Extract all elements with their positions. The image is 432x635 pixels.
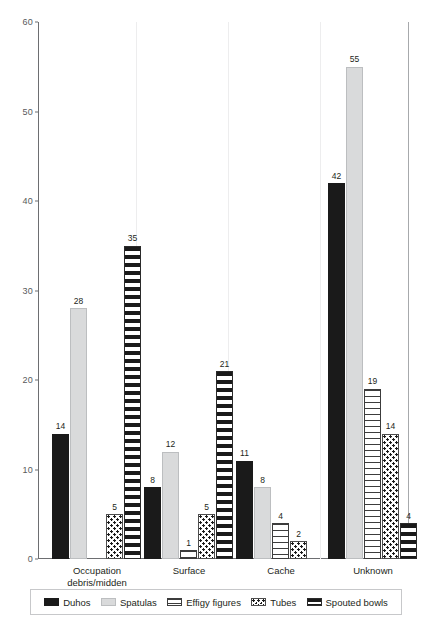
legend-label: Effigy figures bbox=[186, 597, 241, 608]
bar-group-2: 8121521Surface bbox=[144, 22, 234, 559]
bar-slot-effigy-figures bbox=[88, 22, 105, 559]
bar-spatulas[interactable] bbox=[254, 487, 271, 559]
y-axis-tick-label: 30 bbox=[23, 286, 33, 296]
y-axis-tick-label: 50 bbox=[23, 107, 33, 117]
bar-slot-tubes: 5 bbox=[198, 22, 215, 559]
bar-value-label: 5 bbox=[204, 503, 209, 512]
y-axis-tick-mark bbox=[35, 111, 38, 112]
bar-value-label: 5 bbox=[112, 503, 117, 512]
bar-value-label: 19 bbox=[368, 377, 377, 386]
bar-spouted-bowls[interactable] bbox=[124, 246, 141, 559]
y-axis-tick-mark bbox=[35, 380, 38, 381]
bar-slot-spouted-bowls: 21 bbox=[216, 22, 233, 559]
chart-legend: DuhosSpatulasEffigy figuresTubesSpouted … bbox=[30, 589, 402, 615]
x-axis-category-label: Unknown bbox=[313, 565, 432, 577]
bar-slot-tubes: 5 bbox=[106, 22, 123, 559]
legend-swatch-duhos-icon bbox=[44, 598, 59, 606]
y-axis-tick-mark bbox=[35, 201, 38, 202]
bar-group-bars: 425519144 bbox=[328, 22, 418, 559]
bar-value-label: 12 bbox=[166, 440, 175, 449]
bar-tubes[interactable] bbox=[106, 514, 123, 559]
bar-value-label: 21 bbox=[220, 360, 229, 369]
bar-slot-duhos: 42 bbox=[328, 22, 345, 559]
bar-effigy-figures[interactable] bbox=[180, 550, 197, 559]
y-axis-tick-label: 60 bbox=[23, 17, 33, 27]
bar-value-label: 4 bbox=[406, 512, 411, 521]
y-axis-tick-label: 10 bbox=[23, 465, 33, 475]
legend-label: Tubes bbox=[270, 597, 296, 608]
bar-slot-tubes: 14 bbox=[382, 22, 399, 559]
bar-group-1: 1428535Occupation debris/midden bbox=[52, 22, 142, 559]
bar-slot-effigy-figures: 4 bbox=[272, 22, 289, 559]
bar-value-label: 42 bbox=[332, 172, 341, 181]
bar-slot-duhos: 8 bbox=[144, 22, 161, 559]
bar-slot-spouted-bowls bbox=[308, 22, 325, 559]
legend-item-effigy-figures[interactable]: Effigy figures bbox=[167, 597, 241, 608]
y-axis-tick-label: 40 bbox=[23, 196, 33, 206]
bar-group-bars: 11842 bbox=[236, 22, 326, 559]
bar-value-label: 14 bbox=[56, 422, 65, 431]
bar-slot-duhos: 14 bbox=[52, 22, 69, 559]
y-axis-tick-mark bbox=[35, 22, 38, 23]
bar-value-label: 28 bbox=[74, 297, 83, 306]
bar-duhos[interactable] bbox=[236, 461, 253, 559]
y-axis-tick-mark bbox=[35, 290, 38, 291]
bar-spatulas[interactable] bbox=[346, 67, 363, 559]
bar-spouted-bowls[interactable] bbox=[400, 523, 417, 559]
bar-slot-duhos: 11 bbox=[236, 22, 253, 559]
bar-slot-spouted-bowls: 4 bbox=[400, 22, 417, 559]
legend-label: Spatulas bbox=[120, 597, 157, 608]
bar-value-label: 55 bbox=[350, 55, 359, 64]
bar-value-label: 11 bbox=[240, 449, 249, 458]
bar-group-3: 11842Cache bbox=[236, 22, 326, 559]
bar-tubes[interactable] bbox=[382, 434, 399, 559]
bar-value-label: 2 bbox=[296, 530, 301, 539]
bar-value-label: 8 bbox=[260, 476, 265, 485]
bar-effigy-figures[interactable] bbox=[272, 523, 289, 559]
bar-slot-spatulas: 55 bbox=[346, 22, 363, 559]
y-axis-tick-mark bbox=[35, 559, 38, 560]
bar-value-label: 8 bbox=[150, 476, 155, 485]
legend-swatch-effigy-figures-icon bbox=[167, 598, 182, 606]
legend-item-spouted-bowls[interactable]: Spouted bowls bbox=[307, 597, 388, 608]
bar-value-label: 14 bbox=[386, 422, 395, 431]
bar-value-label: 4 bbox=[278, 512, 283, 521]
bar-slot-effigy-figures: 19 bbox=[364, 22, 381, 559]
bar-slot-tubes: 2 bbox=[290, 22, 307, 559]
bar-spatulas[interactable] bbox=[70, 308, 87, 559]
bar-value-label: 1 bbox=[186, 539, 191, 548]
bar-slot-spatulas: 8 bbox=[254, 22, 271, 559]
bar-slot-spatulas: 12 bbox=[162, 22, 179, 559]
y-axis-line bbox=[38, 22, 39, 559]
bar-value-label: 35 bbox=[128, 234, 137, 243]
bar-slot-effigy-figures: 1 bbox=[180, 22, 197, 559]
legend-label: Spouted bowls bbox=[326, 597, 388, 608]
bar-spatulas[interactable] bbox=[162, 452, 179, 559]
y-axis-tick-mark bbox=[35, 469, 38, 470]
bar-effigy-figures[interactable] bbox=[364, 389, 381, 559]
bar-group-bars: 8121521 bbox=[144, 22, 234, 559]
y-axis-tick-label: 0 bbox=[28, 554, 33, 564]
bar-duhos[interactable] bbox=[144, 487, 161, 559]
bar-tubes[interactable] bbox=[198, 514, 215, 559]
bar-slot-spatulas: 28 bbox=[70, 22, 87, 559]
bar-spouted-bowls[interactable] bbox=[216, 371, 233, 559]
bar-group-4: 425519144Unknown bbox=[328, 22, 418, 559]
legend-swatch-spouted-bowls-icon bbox=[307, 598, 322, 606]
legend-label: Duhos bbox=[63, 597, 90, 608]
legend-swatch-spatulas-icon bbox=[101, 598, 116, 606]
bar-chart-figure: 0102030405060 1428535Occupation debris/m… bbox=[0, 0, 432, 635]
legend-swatch-tubes-icon bbox=[251, 598, 266, 606]
y-axis-tick-label: 20 bbox=[23, 375, 33, 385]
bar-tubes[interactable] bbox=[290, 541, 307, 559]
legend-item-tubes[interactable]: Tubes bbox=[251, 597, 296, 608]
plot-area: 0102030405060 1428535Occupation debris/m… bbox=[38, 22, 409, 559]
legend-item-duhos[interactable]: Duhos bbox=[44, 597, 90, 608]
legend-item-spatulas[interactable]: Spatulas bbox=[101, 597, 157, 608]
bar-slot-spouted-bowls: 35 bbox=[124, 22, 141, 559]
bar-duhos[interactable] bbox=[52, 434, 69, 559]
bar-duhos[interactable] bbox=[328, 183, 345, 559]
bar-group-bars: 1428535 bbox=[52, 22, 142, 559]
